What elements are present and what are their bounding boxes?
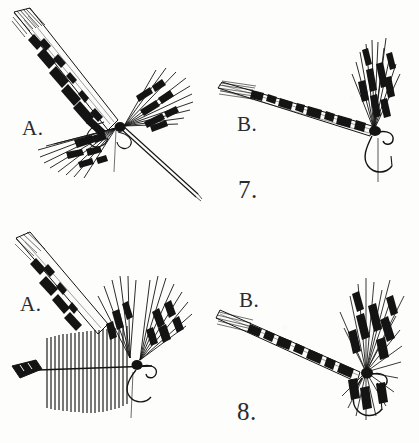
hackle-feather-comb (12, 326, 152, 413)
upright-wing-bunch (352, 38, 400, 130)
radiating-hackle-collar (340, 278, 404, 420)
caption-figure-7-step-a: A. (22, 116, 43, 141)
illustration-plate: A. B. 7. A. B. 8. (0, 0, 419, 443)
caption-figure-8-step-b: B. (239, 288, 259, 313)
figure-8-step-a-illustration (0, 220, 210, 443)
barred-feather-wing (216, 310, 360, 382)
hook-eye (378, 131, 393, 144)
thread-head-wrap (369, 126, 381, 136)
figure-8-step-b-illustration (200, 220, 419, 443)
hook-shank (120, 125, 198, 197)
dark-feather-tip (12, 360, 42, 378)
thread-head-wrap (361, 368, 373, 379)
hook-bend (365, 136, 392, 172)
figure-7-step-a-illustration (0, 0, 210, 220)
caption-figure-7-step-b: B. (237, 112, 257, 137)
flared-hackle-bunch-lower (38, 128, 116, 178)
hook-tag (114, 130, 116, 172)
hook-eye (142, 365, 156, 377)
figure-7-step-b-illustration (200, 0, 419, 220)
divided-wing-bunches (98, 276, 192, 360)
hook (127, 365, 156, 401)
hook-bend (127, 370, 151, 402)
hook (365, 131, 393, 172)
hook-point (391, 156, 392, 166)
caption-figure-8-number: 8. (237, 398, 257, 426)
flared-hackle-bunch-upper (124, 68, 193, 132)
barred-feather-wing (15, 232, 108, 334)
thread-head-wrap (115, 122, 126, 132)
caption-figure-8-step-a: A. (20, 292, 41, 317)
hook-tag (131, 372, 133, 418)
thread-head-wrap (132, 360, 143, 370)
caption-figure-7-number: 7. (238, 176, 258, 204)
